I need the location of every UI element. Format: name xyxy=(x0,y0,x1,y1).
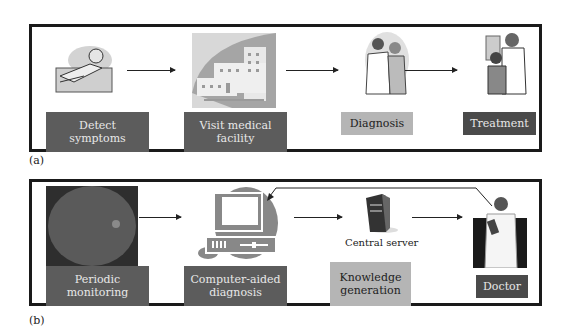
central-server-caption: Central server xyxy=(345,237,418,248)
step-label-knowledge-generation: Knowledge generation xyxy=(330,262,411,306)
step-label-visit-medical-facility: Visit medical facility xyxy=(184,112,287,152)
arrow-b3 xyxy=(412,217,462,218)
panel-a-frame: Detect symptoms Visit medical facility D… xyxy=(29,24,542,152)
step-label-periodic-monitoring: Periodic monitoring xyxy=(46,266,149,306)
step-label-treatment: Treatment xyxy=(463,112,536,135)
doctor-with-child-icon xyxy=(484,30,530,98)
panel-a-caption: (a) xyxy=(29,154,44,167)
step-label-detect-symptoms: Detect symptoms xyxy=(46,112,149,152)
step-label-computer-aided-diagnosis: Computer-aided diagnosis xyxy=(184,266,287,306)
doctor-examining-patient-icon xyxy=(362,30,412,98)
hospital-building-icon xyxy=(192,33,276,108)
panel-b-caption: (b) xyxy=(29,314,45,327)
arrow-a2 xyxy=(286,70,338,71)
arrow-b1 xyxy=(139,217,181,218)
arrow-a1 xyxy=(127,70,175,71)
step-label-diagnosis: Diagnosis xyxy=(341,112,413,135)
arrow-b2 xyxy=(294,217,342,218)
sick-person-icon xyxy=(54,42,116,94)
panel-b-frame: Central server Periodic monitoring Compu… xyxy=(29,179,542,306)
step-label-doctor: Doctor xyxy=(476,275,528,298)
retina-fundus-image-icon xyxy=(46,186,138,267)
arrow-a3 xyxy=(405,70,457,71)
feedback-arrow xyxy=(264,182,504,212)
